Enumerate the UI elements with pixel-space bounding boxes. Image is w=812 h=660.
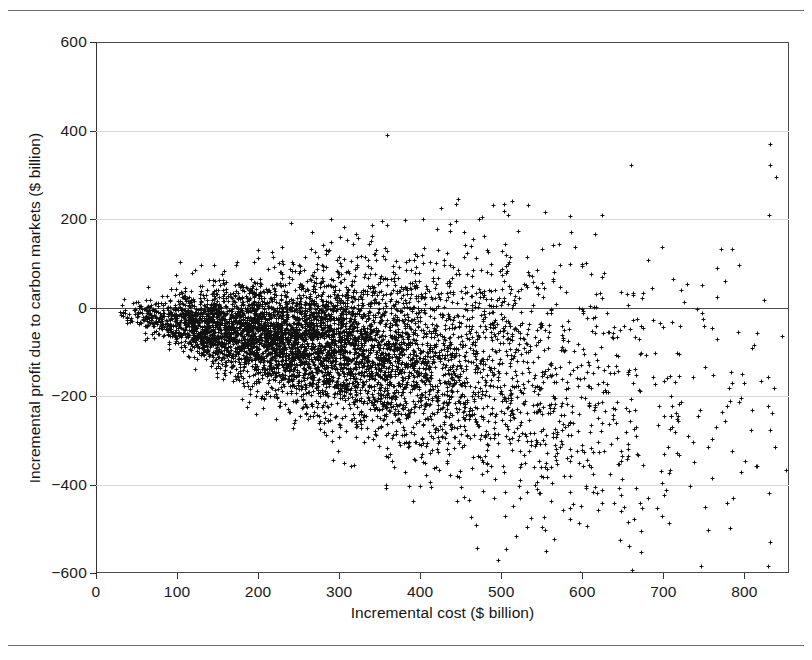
x-tick-mark-5 — [501, 573, 502, 579]
x-tick-label-5: 500 — [488, 583, 514, 601]
x-tick-mark-3 — [339, 573, 340, 579]
y-tick-label-1: 400 — [61, 122, 87, 140]
x-tick-label-1: 100 — [164, 583, 190, 601]
x-tick-label-4: 400 — [407, 583, 433, 601]
x-tick-label-0: 0 — [92, 583, 101, 601]
y-axis-title-text: Incremental profit due to carbon markets… — [26, 132, 44, 483]
y-tick-label-5: −400 — [51, 476, 87, 494]
y-axis-title: Incremental profit due to carbon markets… — [24, 42, 46, 573]
scatter-points-layer — [96, 42, 789, 573]
plot-area: 6004002000−200−400−600 01002003004005006… — [96, 42, 789, 573]
x-tick-mark-1 — [177, 573, 178, 579]
x-tick-mark-2 — [258, 573, 259, 579]
x-tick-mark-6 — [582, 573, 583, 579]
x-tick-label-3: 300 — [326, 583, 352, 601]
y-tick-label-3: 0 — [78, 299, 87, 317]
x-tick-label-6: 600 — [569, 583, 595, 601]
top-divider-rule — [8, 10, 804, 11]
x-tick-label-2: 200 — [245, 583, 271, 601]
y-tick-label-4: −200 — [51, 387, 87, 405]
y-tick-label-0: 600 — [61, 33, 87, 51]
figure-container: Incremental profit due to carbon markets… — [0, 0, 812, 660]
x-tick-label-8: 800 — [731, 583, 757, 601]
x-tick-mark-0 — [96, 573, 97, 579]
x-tick-mark-7 — [663, 573, 664, 579]
x-tick-label-7: 700 — [650, 583, 676, 601]
x-tick-mark-4 — [420, 573, 421, 579]
x-axis-title-text: Incremental cost ($ billion) — [351, 604, 535, 621]
x-axis-title: Incremental cost ($ billion) — [96, 604, 789, 622]
x-tick-mark-8 — [744, 573, 745, 579]
y-tick-label-2: 200 — [61, 210, 87, 228]
bottom-divider-rule — [8, 645, 804, 646]
y-tick-label-6: −600 — [51, 564, 87, 582]
